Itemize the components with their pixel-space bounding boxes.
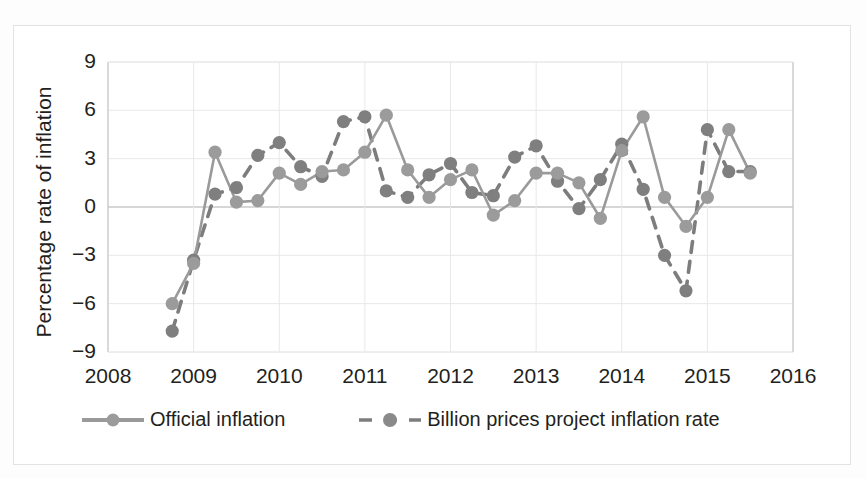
data-point: [465, 186, 478, 199]
y-tick-label: −6: [56, 291, 96, 315]
data-point: [273, 136, 286, 149]
data-point: [401, 163, 414, 176]
data-point: [166, 324, 179, 337]
x-tick-label: 2013: [491, 364, 581, 388]
data-point: [422, 168, 435, 181]
data-point: [337, 163, 350, 176]
y-tick-label: −9: [56, 339, 96, 363]
data-point: [337, 115, 350, 128]
y-tick-label: 0: [56, 194, 96, 218]
data-point: [701, 191, 714, 204]
x-tick-label: 2011: [320, 364, 410, 388]
chart-figure: 9630−3−6−9 20082009201020112012201320142…: [0, 0, 866, 479]
data-point: [679, 284, 692, 297]
data-point: [294, 178, 307, 191]
data-point: [722, 165, 735, 178]
data-point: [637, 110, 650, 123]
data-point: [315, 165, 328, 178]
data-point: [380, 184, 393, 197]
data-point: [401, 191, 414, 204]
x-tick-label: 2009: [149, 364, 239, 388]
data-point: [166, 297, 179, 310]
legend-entry-official[interactable]: Official inflation: [80, 408, 285, 431]
data-point: [658, 191, 671, 204]
data-point: [679, 220, 692, 233]
data-point: [508, 150, 521, 163]
data-point: [230, 181, 243, 194]
data-point: [530, 167, 543, 180]
x-tick-label: 2008: [63, 364, 153, 388]
data-point: [572, 202, 585, 215]
data-point: [187, 257, 200, 270]
y-tick-label: −3: [56, 242, 96, 266]
y-axis-title: Percentage rate of inflation: [32, 62, 56, 362]
series-line-1: [172, 115, 750, 304]
x-tick-label: 2014: [577, 364, 667, 388]
chart-legend: Official inflation Billion prices projec…: [80, 408, 720, 431]
y-tick-label: 3: [56, 146, 96, 170]
data-point: [572, 176, 585, 189]
y-tick-label: 9: [56, 49, 96, 73]
data-point: [594, 173, 607, 186]
data-point: [380, 109, 393, 122]
data-point: [530, 139, 543, 152]
data-point: [594, 212, 607, 225]
data-point: [701, 123, 714, 136]
data-point: [487, 189, 500, 202]
data-point: [251, 194, 264, 207]
data-point: [251, 149, 264, 162]
legend-swatch-dashed: [357, 409, 423, 431]
y-tick-label: 6: [56, 97, 96, 121]
legend-label-bpp: Billion prices project inflation rate: [427, 408, 719, 431]
data-point: [422, 191, 435, 204]
data-point: [230, 196, 243, 209]
data-point: [444, 173, 457, 186]
data-point: [208, 146, 221, 159]
data-point: [208, 188, 221, 201]
data-point: [487, 208, 500, 221]
x-tick-label: 2010: [234, 364, 324, 388]
legend-swatch-solid: [80, 409, 146, 431]
legend-label-official: Official inflation: [150, 408, 285, 431]
data-point: [273, 167, 286, 180]
legend-entry-bpp[interactable]: Billion prices project inflation rate: [357, 408, 719, 431]
data-point: [358, 110, 371, 123]
data-point: [444, 157, 457, 170]
series-line-2: [172, 117, 750, 331]
data-point: [294, 160, 307, 173]
data-point: [358, 146, 371, 159]
data-point: [722, 123, 735, 136]
data-point: [637, 183, 650, 196]
x-tick-label: 2015: [662, 364, 752, 388]
data-point: [615, 144, 628, 157]
data-point: [744, 167, 757, 180]
data-point: [658, 249, 671, 262]
data-point: [465, 163, 478, 176]
data-point: [551, 167, 564, 180]
x-tick-label: 2016: [748, 364, 838, 388]
data-point: [508, 194, 521, 207]
x-tick-label: 2012: [406, 364, 496, 388]
